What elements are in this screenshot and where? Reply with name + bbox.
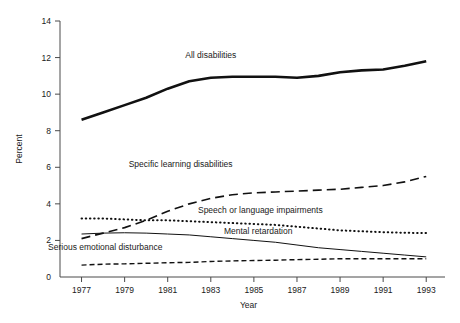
x-tick-label: 1989 <box>331 285 350 295</box>
y-axis-title: Percent <box>14 134 24 164</box>
series-label-1: Specific learning disabilities <box>129 159 233 169</box>
x-tick-label: 1991 <box>374 285 393 295</box>
y-tick-label: 4 <box>46 199 51 209</box>
series-label-0: All disabilities <box>185 50 236 60</box>
series-label-3: Mental retardation <box>224 226 293 236</box>
x-axis-title: Year <box>240 300 257 310</box>
y-tick-label: 0 <box>46 272 51 282</box>
chart-container: 02468101214 1977197919811983198519871989… <box>0 0 460 323</box>
x-tick-label: 1983 <box>201 285 220 295</box>
x-tick-label: 1985 <box>244 285 263 295</box>
plot-area: 02468101214 1977197919811983198519871989… <box>14 16 445 310</box>
line-chart: 02468101214 1977197919811983198519871989… <box>0 0 460 323</box>
x-tick-label: 1979 <box>115 285 134 295</box>
y-tick-label: 8 <box>46 126 51 136</box>
y-tick-label: 10 <box>42 89 52 99</box>
x-tick-label: 1981 <box>158 285 177 295</box>
y-tick-label: 12 <box>42 53 52 63</box>
x-axis: 197719791981198319851987198919911993 <box>60 277 445 295</box>
series-line-0 <box>82 61 427 120</box>
series-labels: All disabilitiesSpecific learning disabi… <box>48 50 323 253</box>
series-label-2: Speech or language impairments <box>198 205 323 215</box>
y-tick-label: 14 <box>42 16 52 26</box>
y-tick-label: 6 <box>46 162 51 172</box>
x-tick-label: 1977 <box>72 285 91 295</box>
x-tick-label: 1987 <box>288 285 307 295</box>
series-label-4: Serious emotional disturbance <box>48 242 163 252</box>
x-tick-label: 1993 <box>417 285 436 295</box>
series-line-4 <box>82 259 427 265</box>
